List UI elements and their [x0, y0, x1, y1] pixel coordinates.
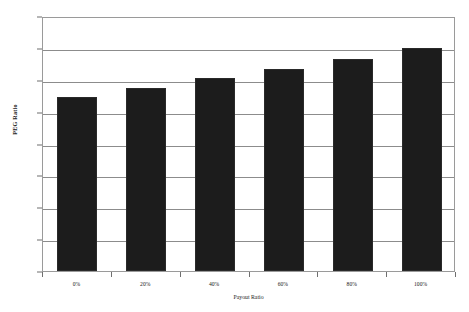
- gridline: [43, 241, 454, 242]
- gridline: [43, 114, 454, 115]
- gridline: [43, 209, 454, 210]
- bar: [57, 97, 97, 271]
- x-tick-mark: [42, 272, 43, 277]
- bar: [126, 88, 166, 271]
- x-tick-label: 100%: [391, 281, 451, 287]
- x-tick-mark: [249, 272, 250, 277]
- bar: [195, 78, 235, 271]
- x-tick-label: 40%: [184, 281, 244, 287]
- x-tick-mark: [317, 272, 318, 277]
- bar: [264, 69, 304, 271]
- bar-chart: PEG Ratio 00.20.40.60.811.21.41.6 0%20%4…: [0, 0, 469, 312]
- y-axis-title: PEG Ratio: [11, 85, 18, 155]
- gridline: [43, 177, 454, 178]
- x-tick-mark: [180, 272, 181, 277]
- bar: [333, 59, 373, 271]
- x-tick-label: 20%: [115, 281, 175, 287]
- x-tick-mark: [455, 272, 456, 277]
- gridline: [43, 146, 454, 147]
- x-tick-label: 60%: [253, 281, 313, 287]
- gridline: [43, 82, 454, 83]
- plot-area: [42, 17, 455, 272]
- x-tick-label: 0%: [46, 281, 106, 287]
- x-tick-label: 80%: [322, 281, 382, 287]
- x-axis-title: Payout Ratio: [42, 294, 455, 300]
- gridline: [43, 50, 454, 51]
- x-tick-mark: [111, 272, 112, 277]
- x-tick-mark: [386, 272, 387, 277]
- bar: [402, 48, 442, 271]
